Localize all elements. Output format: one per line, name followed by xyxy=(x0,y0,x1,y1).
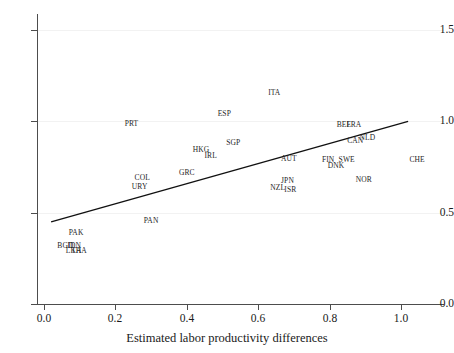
y-tick-label: 1.5 xyxy=(425,24,454,36)
x-tick-mark xyxy=(44,305,45,310)
data-point-label: SGP xyxy=(226,139,240,147)
data-point-label: CHE xyxy=(409,156,424,164)
x-tick-mark xyxy=(258,305,259,310)
data-point-label: DNK xyxy=(328,162,345,170)
data-point-label: PRT xyxy=(125,120,139,128)
gridline-y-1-0 xyxy=(38,121,444,122)
data-point-label: NZL xyxy=(270,184,285,192)
y-tick-mark xyxy=(31,30,37,31)
data-point-label: AUT xyxy=(281,155,297,163)
data-point-label: PAK xyxy=(69,229,84,237)
data-point-label: ESP xyxy=(218,110,231,118)
data-point-label: FRA xyxy=(346,121,361,129)
x-tick-label: 0.2 xyxy=(95,313,135,325)
x-tick-mark xyxy=(187,305,188,310)
y-tick-label: 0.5 xyxy=(425,207,454,219)
data-point-label: PAN xyxy=(144,217,159,225)
x-tick-label: 0.0 xyxy=(24,313,64,325)
x-tick-mark xyxy=(330,305,331,310)
data-point-label: ITA xyxy=(268,89,280,97)
x-tick-label: 0.8 xyxy=(310,313,350,325)
data-point-label: CAN xyxy=(347,137,363,145)
data-point-label: URY xyxy=(132,183,148,191)
scatter-plot-figure: 1.5 1.0 0.5 0.0 0.0 0.2 0.4 0.6 0.8 1.0 … xyxy=(0,0,454,353)
data-point-label: NOR xyxy=(356,176,372,184)
y-tick-label: 0.0 xyxy=(425,298,454,310)
y-tick-label: 1.0 xyxy=(425,115,454,127)
x-axis-title: Estimated labor productivity differences xyxy=(0,331,454,346)
y-tick-mark xyxy=(31,213,37,214)
x-tick-label: 1.0 xyxy=(381,313,421,325)
data-point-label: THA xyxy=(71,247,87,255)
x-tick-mark xyxy=(115,305,116,310)
y-tick-mark xyxy=(31,304,37,305)
x-tick-label: 0.4 xyxy=(167,313,207,325)
x-tick-label: 0.6 xyxy=(238,313,278,325)
data-point-label: GRC xyxy=(179,169,195,177)
data-point-label: COL xyxy=(135,174,150,182)
y-tick-mark xyxy=(31,121,37,122)
x-tick-mark xyxy=(401,305,402,310)
y-axis-line xyxy=(37,14,38,305)
gridline-y-1-5 xyxy=(38,30,444,31)
regression-fit-line xyxy=(0,0,454,353)
x-axis-line xyxy=(37,304,444,305)
data-point-label: IRL xyxy=(204,152,216,160)
gridline-y-0-5 xyxy=(38,213,444,214)
data-point-label: ISR xyxy=(284,186,296,194)
